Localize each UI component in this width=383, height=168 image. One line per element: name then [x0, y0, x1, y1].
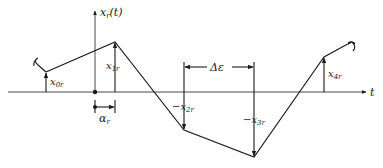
left-break-squiggle — [34, 58, 46, 72]
x2-label: −x2r — [172, 101, 194, 114]
x0-label: x0r — [50, 76, 64, 89]
value-axis-label: xr(t) — [100, 6, 123, 20]
time-axis-label: t — [370, 86, 375, 99]
origin-dot — [93, 90, 97, 94]
right-break-squiggle — [344, 42, 355, 51]
x1-label: x1r — [106, 60, 120, 73]
signal-curve — [46, 42, 344, 157]
offset-label: αr — [99, 112, 110, 126]
interval-label: Δε — [209, 61, 224, 74]
signal-diagram: t xr(t) x0r x1r αr −x2r −x3r Δε x4r — [0, 0, 383, 168]
x4-label: x4r — [328, 68, 342, 81]
